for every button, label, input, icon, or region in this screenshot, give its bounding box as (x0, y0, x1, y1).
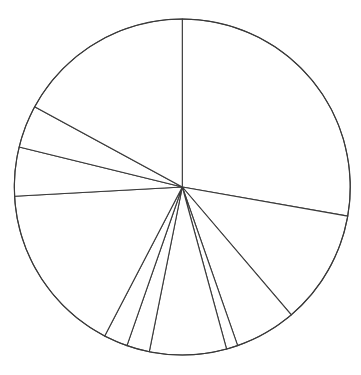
pie-slice-1 (182, 19, 350, 216)
pie-slices (14, 19, 350, 355)
pie-chart-canvas (0, 0, 361, 375)
pie-chart (0, 0, 361, 375)
